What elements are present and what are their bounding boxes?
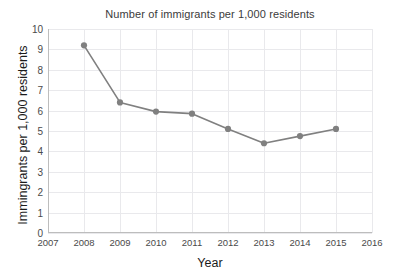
gridline-vertical xyxy=(372,29,373,233)
x-tick-label: 2008 xyxy=(73,237,94,248)
y-tick-label: 5 xyxy=(37,126,43,137)
gridline-horizontal xyxy=(48,233,372,234)
x-tick-label: 2009 xyxy=(109,237,130,248)
data-point-marker xyxy=(153,109,159,115)
data-point-marker xyxy=(297,133,303,139)
x-axis-title: Year xyxy=(48,256,372,270)
y-tick-label: 2 xyxy=(37,187,43,198)
y-axis-title: Immingrants per 1,000 residents xyxy=(16,25,30,245)
data-point-marker xyxy=(333,126,339,132)
x-tick-label: 2016 xyxy=(361,237,382,248)
y-tick-label: 9 xyxy=(37,44,43,55)
x-tick-label: 2015 xyxy=(325,237,346,248)
data-point-marker xyxy=(117,99,123,105)
x-tick-label: 2010 xyxy=(145,237,166,248)
line-chart-figure: Number of immigrants per 1,000 residents… xyxy=(0,0,394,277)
data-series-line xyxy=(48,29,372,233)
data-point-marker xyxy=(261,140,267,146)
series-polyline xyxy=(84,45,336,143)
y-tick-label: 10 xyxy=(32,24,43,35)
plot-area: 012345678910 200720082009201020112012201… xyxy=(48,29,372,233)
chart-title: Number of immigrants per 1,000 residents xyxy=(48,8,372,20)
x-tick-label: 2014 xyxy=(289,237,310,248)
data-point-marker xyxy=(225,126,231,132)
x-tick-label: 2011 xyxy=(182,237,202,248)
data-point-marker xyxy=(81,42,87,48)
data-point-marker xyxy=(189,111,195,117)
x-tick-label: 2013 xyxy=(253,237,274,248)
y-tick-label: 6 xyxy=(37,105,43,116)
series-markers xyxy=(81,42,339,146)
y-tick-label: 7 xyxy=(37,85,43,96)
x-tick-label: 2012 xyxy=(217,237,238,248)
y-tick-label: 3 xyxy=(37,166,43,177)
y-tick-label: 4 xyxy=(37,146,43,157)
y-tick-label: 8 xyxy=(37,64,43,75)
x-tick-label: 2007 xyxy=(37,237,58,248)
y-tick-label: 1 xyxy=(37,207,43,218)
